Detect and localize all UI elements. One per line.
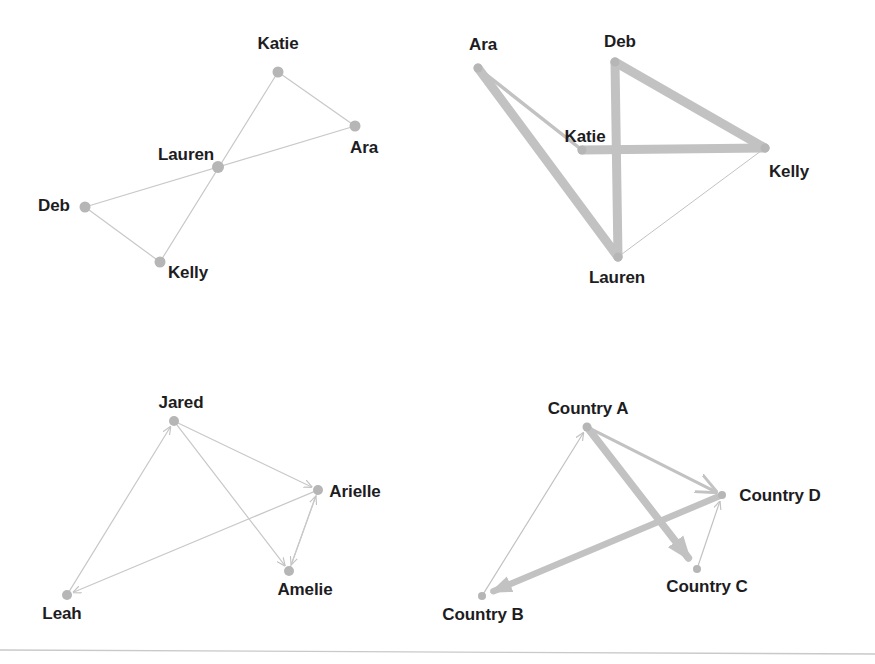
node-leah[interactable] — [62, 590, 72, 600]
node-deb[interactable] — [80, 202, 91, 213]
edge-lauren-to-kelly — [618, 148, 765, 257]
edge-deb-to-kelly — [615, 62, 765, 148]
edge-country-a-to-country-c — [589, 429, 689, 558]
node-katie[interactable] — [578, 146, 587, 155]
bottom-rule-divider — [0, 650, 875, 654]
edges-group — [68, 62, 765, 595]
edge-deb-to-kelly — [85, 207, 160, 262]
edge-ara-to-lauren — [478, 68, 618, 257]
edge-jared-to-amelie — [175, 422, 285, 566]
edge-country-b-to-country-a — [483, 433, 584, 595]
network-graph-figure: KatieAraLaurenDebKellyAraDebKatieKellyLa… — [0, 0, 875, 664]
node-katie[interactable] — [273, 67, 284, 78]
node-arielle[interactable] — [313, 485, 323, 495]
node-lauren[interactable] — [614, 253, 623, 262]
edge-deb-to-lauren — [615, 62, 618, 257]
edge-country-c-to-country-d — [697, 502, 719, 568]
node-ara[interactable] — [474, 64, 483, 73]
edge-leah-to-jared — [68, 427, 171, 594]
node-country-c[interactable] — [693, 565, 701, 573]
network-graph-canvas — [0, 0, 875, 664]
edge-amelie-to-arielle — [289, 497, 315, 570]
edge-arielle-to-leah — [73, 490, 317, 592]
node-amelie[interactable] — [284, 566, 294, 576]
node-kelly[interactable] — [761, 144, 770, 153]
node-lauren[interactable] — [212, 161, 224, 173]
edge-country-d-to-country-b — [493, 496, 719, 591]
node-jared[interactable] — [169, 416, 179, 426]
node-country-a[interactable] — [583, 423, 592, 432]
node-country-d[interactable] — [718, 491, 726, 499]
edge-katie-to-kelly — [582, 148, 765, 150]
edge-katie-to-ara — [278, 72, 355, 126]
edge-jared-to-arielle — [175, 421, 312, 487]
node-deb[interactable] — [611, 58, 620, 67]
node-ara[interactable] — [350, 121, 361, 132]
node-kelly[interactable] — [155, 257, 166, 268]
node-country-b[interactable] — [478, 592, 486, 600]
edge-country-a-to-country-d — [588, 427, 716, 491]
